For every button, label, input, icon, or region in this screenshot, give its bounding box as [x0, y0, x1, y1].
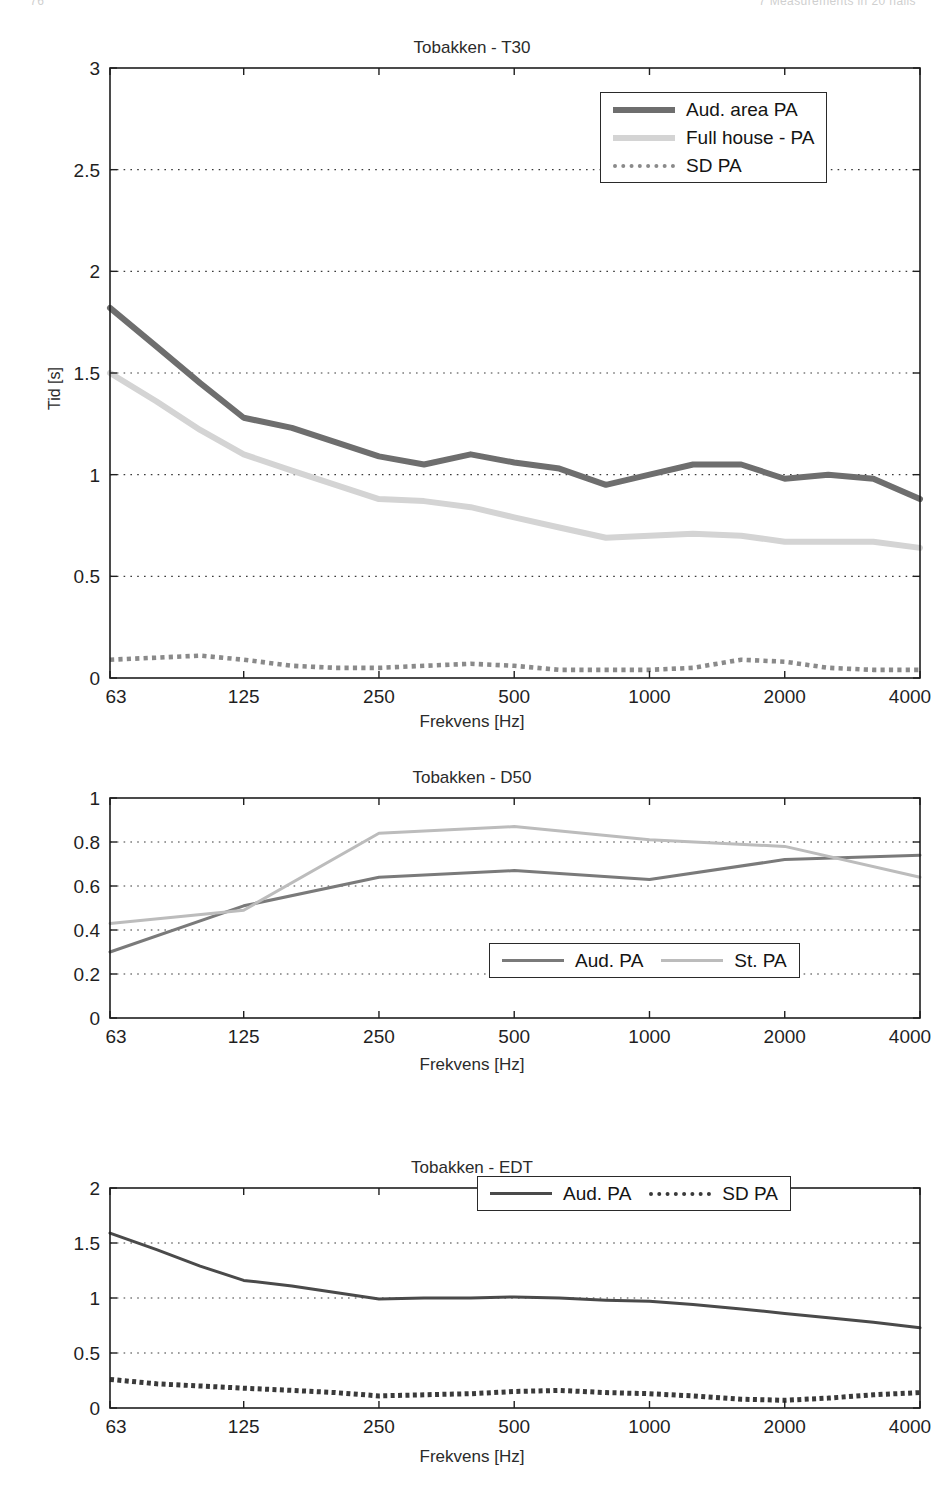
- x-tick-label: 500: [498, 686, 530, 707]
- legend-d50: Aud. PASt. PA: [489, 943, 800, 978]
- x-tick-label: 1000: [628, 686, 670, 707]
- x-tick-label: 4000: [889, 686, 931, 707]
- y-tick-label: 2.5: [74, 160, 100, 181]
- y-tick-label: 0.2: [74, 964, 100, 985]
- y-tick-label: 0: [89, 1008, 100, 1029]
- legend-entry: Full house - PA: [613, 128, 814, 147]
- x-tick-label: 500: [498, 1026, 530, 1047]
- plot-area-edt: 00.511.5263125250500100020004000: [0, 1150, 944, 1450]
- y-tick-label: 0.5: [74, 1343, 100, 1364]
- legend-entry: SD PA: [649, 1184, 778, 1203]
- x-tick-label: 1000: [628, 1416, 670, 1437]
- y-tick-label: 2: [89, 1178, 100, 1199]
- x-tick-label: 4000: [889, 1416, 931, 1437]
- y-tick-label: 3: [89, 58, 100, 79]
- y-tick-label: 0.6: [74, 876, 100, 897]
- y-tick-label: 1: [89, 465, 100, 486]
- y-tick-label: 1: [89, 788, 100, 809]
- legend-entry: Aud. PA: [490, 1184, 631, 1203]
- x-axis-label-t30: Frekvens [Hz]: [0, 712, 944, 732]
- legend-label: SD PA: [686, 156, 742, 175]
- legend-swatch-icon: [490, 1192, 552, 1195]
- y-tick-label: 1.5: [74, 1233, 100, 1254]
- y-tick-label: 1: [89, 1288, 100, 1309]
- legend-swatch-icon: [661, 959, 723, 962]
- y-tick-label: 0.5: [74, 566, 100, 587]
- legend-swatch-icon: [649, 1192, 711, 1196]
- y-tick-label: 1.5: [74, 363, 100, 384]
- x-tick-label: 125: [228, 686, 260, 707]
- figure-edt: Tobakken - EDT Tid [s] 00.511.5263125250…: [0, 1150, 944, 1500]
- x-tick-label: 4000: [889, 1026, 931, 1047]
- x-tick-label: 2000: [764, 686, 806, 707]
- x-tick-label: 250: [363, 1026, 395, 1047]
- x-tick-label: 63: [105, 1416, 126, 1437]
- running-head: 7 Measurements in 20 halls: [759, 0, 916, 8]
- page-header: 76 7 Measurements in 20 halls: [0, 0, 944, 14]
- x-tick-label: 1000: [628, 1026, 670, 1047]
- x-tick-label: 250: [363, 1416, 395, 1437]
- legend-label: Aud. area PA: [686, 100, 798, 119]
- legend-label: Aud. PA: [575, 951, 643, 970]
- legend-label: Aud. PA: [563, 1184, 631, 1203]
- legend-edt: Aud. PASD PA: [477, 1176, 791, 1211]
- x-axis-label-edt: Frekvens [Hz]: [0, 1447, 944, 1467]
- x-axis-label-d50: Frekvens [Hz]: [0, 1055, 944, 1075]
- x-tick-label: 63: [105, 1026, 126, 1047]
- figure-t30: Tobakken - T30 Tid [s] 00.511.522.536312…: [0, 30, 944, 750]
- x-tick-label: 125: [228, 1416, 260, 1437]
- x-tick-label: 500: [498, 1416, 530, 1437]
- legend-entry: Aud. area PA: [613, 100, 814, 119]
- y-tick-label: 0.8: [74, 832, 100, 853]
- y-tick-label: 0: [89, 668, 100, 689]
- page-number: 76: [30, 0, 44, 8]
- legend-label: Full house - PA: [686, 128, 814, 147]
- legend-t30: Aud. area PAFull house - PASD PA: [600, 92, 827, 183]
- legend-swatch-icon: [613, 107, 675, 113]
- legend-label: SD PA: [722, 1184, 778, 1203]
- legend-entry: SD PA: [613, 156, 814, 175]
- plot-area-d50: 00.20.40.60.8163125250500100020004000: [0, 760, 944, 1060]
- y-tick-label: 0.4: [74, 920, 101, 941]
- x-tick-label: 125: [228, 1026, 260, 1047]
- legend-swatch-icon: [613, 135, 675, 141]
- x-tick-label: 2000: [764, 1026, 806, 1047]
- x-tick-label: 63: [105, 686, 126, 707]
- legend-swatch-icon: [502, 959, 564, 962]
- figure-d50: Tobakken - D50 00.20.40.60.8163125250500…: [0, 760, 944, 1100]
- y-tick-label: 0: [89, 1398, 100, 1419]
- legend-entry: St. PA: [661, 951, 786, 970]
- legend-swatch-icon: [613, 164, 675, 168]
- x-tick-label: 2000: [764, 1416, 806, 1437]
- legend-entry: Aud. PA: [502, 951, 643, 970]
- x-tick-label: 250: [363, 686, 395, 707]
- legend-label: St. PA: [734, 951, 786, 970]
- y-tick-label: 2: [89, 261, 100, 282]
